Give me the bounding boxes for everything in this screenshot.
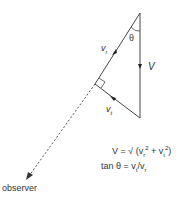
- velocity-triangle: [0, 0, 191, 200]
- vt-arrowhead: [110, 96, 116, 101]
- observer-line: [29, 84, 95, 176]
- observer-label: observer: [2, 183, 37, 193]
- vr-label: vr: [101, 43, 108, 55]
- theta-arc: [131, 27, 140, 31]
- theta-label: θ: [129, 33, 134, 43]
- V-label: V: [148, 61, 155, 72]
- equation-V: V = √ (vr2 + vt2): [112, 145, 171, 158]
- observer-arrowhead: [26, 172, 33, 180]
- tangential-velocity-line: [95, 84, 140, 118]
- vt-label: vt: [106, 104, 112, 116]
- equation-tan-theta: tan θ = vt/vr: [101, 161, 146, 173]
- right-angle-marker: [99, 78, 105, 88]
- V-arrowhead: [138, 64, 142, 69]
